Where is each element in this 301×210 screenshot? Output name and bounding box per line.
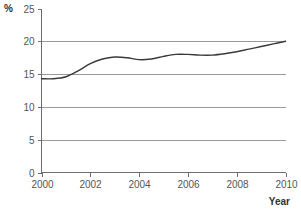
y-tick-label-10: 10 bbox=[23, 102, 35, 113]
chart-container: 0510152025 200020022004200620082010 % Ye… bbox=[0, 0, 301, 210]
line-chart: 0510152025 200020022004200620082010 % Ye… bbox=[0, 0, 301, 210]
y-tick-label-0: 0 bbox=[29, 168, 35, 179]
axes-group bbox=[42, 9, 286, 173]
y-ticks-group: 0510152025 bbox=[23, 4, 41, 179]
y-axis-title: % bbox=[4, 3, 13, 14]
y-tick-label-15: 15 bbox=[23, 69, 35, 80]
x-tick-label-2004: 2004 bbox=[128, 179, 151, 190]
x-tick-label-2000: 2000 bbox=[31, 179, 54, 190]
x-tick-label-2010: 2010 bbox=[275, 179, 298, 190]
x-axis-title: Year bbox=[269, 196, 290, 207]
y-tick-label-20: 20 bbox=[23, 36, 35, 47]
y-tick-label-25: 25 bbox=[23, 4, 35, 15]
data-curve-percentage bbox=[42, 41, 286, 79]
data-series-group bbox=[42, 41, 286, 79]
x-tick-label-2008: 2008 bbox=[226, 179, 249, 190]
y-tick-label-5: 5 bbox=[29, 135, 35, 146]
x-tick-label-2006: 2006 bbox=[177, 179, 200, 190]
x-ticks-group: 200020022004200620082010 bbox=[31, 173, 298, 190]
x-tick-label-2002: 2002 bbox=[79, 179, 102, 190]
